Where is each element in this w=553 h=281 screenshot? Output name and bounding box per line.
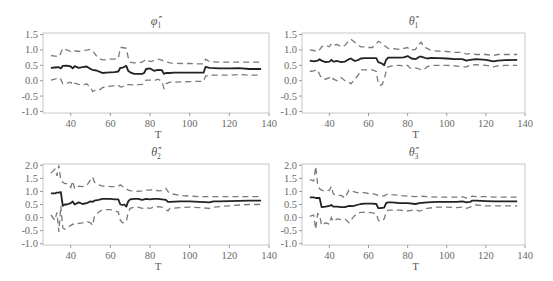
figure: φ̂11.51.00.50.0-0.5-1.0406080100120140Tθ… xyxy=(0,0,553,281)
y-tick-label: 2.0 xyxy=(284,160,297,171)
chart-panel-4: θ̂32.01.51.00.50.0-0.5-1.040608010012014… xyxy=(280,145,533,272)
panel-title: φ̂1 xyxy=(151,14,163,30)
y-tick-label: 1.0 xyxy=(284,186,297,197)
panel-title-subscript: 3 xyxy=(415,152,419,161)
x-tick-label: 120 xyxy=(478,118,494,129)
x-axis-label: T xyxy=(155,260,162,272)
y-tick-label: 1.5 xyxy=(284,173,297,184)
y-tick-label: 1.5 xyxy=(25,29,38,40)
series-line-upper xyxy=(310,39,517,55)
panel-title-subscript: 2 xyxy=(157,152,161,161)
x-tick-label: 100 xyxy=(182,250,198,261)
plot-frame xyxy=(43,33,269,113)
x-tick-label: 120 xyxy=(478,250,494,261)
y-tick-label: 0.5 xyxy=(25,199,38,210)
x-tick-label: 140 xyxy=(261,250,277,261)
x-tick-label: 60 xyxy=(105,118,116,129)
x-tick-label: 40 xyxy=(324,118,335,129)
series-line-estimate xyxy=(51,66,261,74)
x-tick-label: 120 xyxy=(221,250,237,261)
chart-panel-3: θ̂22.01.51.00.50.0-0.5-1.040608010012014… xyxy=(21,145,277,272)
y-tick-label: 1.5 xyxy=(25,173,38,184)
panel-title: θ̂1 xyxy=(409,14,420,30)
series-line-upper xyxy=(310,167,517,198)
x-tick-label: 100 xyxy=(439,250,455,261)
series-line-estimate xyxy=(310,197,517,208)
plot-frame xyxy=(43,164,269,245)
y-tick-label: 0.5 xyxy=(25,60,38,71)
x-axis-label: T xyxy=(412,260,419,272)
y-tick-label: 1.0 xyxy=(25,44,38,55)
y-tick-label: -0.5 xyxy=(280,225,297,236)
x-tick-label: 120 xyxy=(221,118,237,129)
x-tick-label: 140 xyxy=(517,250,533,261)
x-tick-label: 60 xyxy=(363,250,374,261)
panel-title: θ̂3 xyxy=(409,145,420,161)
x-tick-label: 40 xyxy=(66,250,77,261)
panel-title: θ̂2 xyxy=(151,145,162,161)
y-tick-label: 0.0 xyxy=(284,212,297,223)
x-tick-label: 40 xyxy=(324,250,335,261)
series-line-lower xyxy=(51,205,261,232)
y-tick-label: -1.0 xyxy=(21,238,38,249)
panel-title-subscript: 1 xyxy=(415,21,419,30)
y-tick-label: 1.0 xyxy=(25,186,38,197)
series-line-estimate xyxy=(310,56,517,65)
y-tick-label: -0.5 xyxy=(21,225,38,236)
series-line-upper xyxy=(51,48,261,64)
y-tick-label: 0.0 xyxy=(284,75,297,86)
y-tick-label: -1.0 xyxy=(280,106,297,117)
y-tick-label: 1.5 xyxy=(284,29,297,40)
panel-title-subscript: 1 xyxy=(157,21,161,30)
x-tick-label: 140 xyxy=(517,118,533,129)
y-tick-label: -1.0 xyxy=(21,106,38,117)
series-line-lower xyxy=(310,65,517,86)
x-tick-label: 100 xyxy=(439,118,455,129)
series-line-lower xyxy=(51,75,261,92)
y-tick-label: 2.0 xyxy=(25,160,38,171)
x-axis-label: T xyxy=(412,128,419,140)
x-tick-label: 140 xyxy=(261,118,277,129)
x-tick-label: 100 xyxy=(182,118,198,129)
chart-panel-1: φ̂11.51.00.50.0-0.5-1.0406080100120140T xyxy=(21,14,277,140)
y-tick-label: -0.5 xyxy=(280,91,297,102)
y-tick-label: 0.0 xyxy=(25,75,38,86)
chart-panel-2: θ̂11.51.00.50.0-0.5-1.0406080100120140T xyxy=(280,14,533,140)
y-tick-label: 0.0 xyxy=(25,212,38,223)
x-tick-label: 60 xyxy=(363,118,374,129)
y-tick-label: 0.5 xyxy=(284,199,297,210)
series-line-estimate xyxy=(51,192,261,207)
y-tick-label: 1.0 xyxy=(284,44,297,55)
series-line-lower xyxy=(310,205,517,229)
x-tick-label: 60 xyxy=(105,250,116,261)
x-tick-label: 40 xyxy=(66,118,77,129)
y-tick-label: -0.5 xyxy=(21,91,38,102)
y-tick-label: -1.0 xyxy=(280,238,297,249)
series-line-upper xyxy=(51,165,261,196)
x-axis-label: T xyxy=(155,128,162,140)
y-tick-label: 0.5 xyxy=(284,60,297,71)
